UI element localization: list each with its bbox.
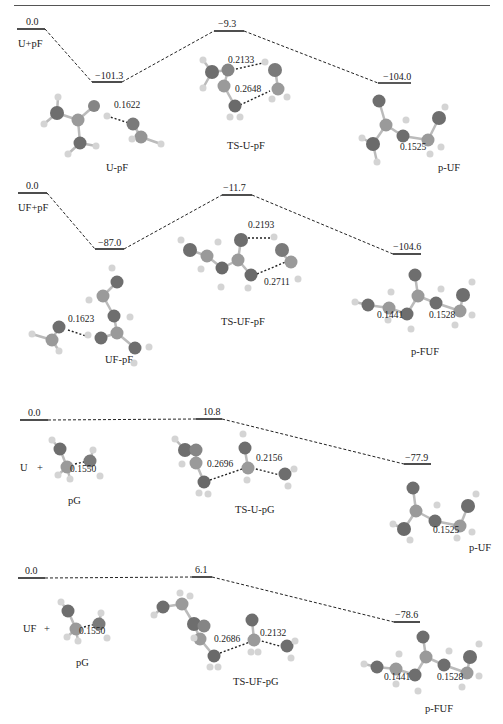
energy-reactant: 0.0 — [26, 181, 39, 191]
distance-label: 0.2696 — [207, 460, 233, 470]
reactant-label: UF+pF — [18, 203, 48, 214]
panel-u-pf: 0.0 U+pF −101.3 −9.3 −104.0 0.1622 0.213… — [0, 0, 503, 180]
panel-uf-pg: 0.0 UF + 0.1550 pG 6.1 0.2686 0.2132 TS-… — [0, 540, 503, 724]
molecule-u-pf — [41, 94, 165, 158]
distance-label: 0.1525 — [433, 526, 459, 536]
molecule-ts-u-pg — [172, 431, 298, 498]
species-label: TS-UF-pG — [233, 677, 279, 688]
energy-ts: −11.7 — [223, 183, 246, 193]
energy-product: −78.6 — [395, 610, 418, 620]
energy-product: −104.0 — [383, 72, 411, 82]
molecule-p-fuf — [352, 269, 476, 333]
energy-ts: −9.3 — [218, 19, 236, 29]
distance-label: 0.2133 — [228, 56, 254, 66]
distance-label: 0.2132 — [260, 629, 286, 639]
species-label: TS-U-pF — [227, 141, 265, 152]
energy-profile-lines — [0, 170, 503, 370]
species-label: pG — [68, 496, 81, 507]
energy-complex: −101.3 — [95, 71, 123, 81]
distance-label: 0.2711 — [264, 278, 290, 288]
energy-reactant: 0.0 — [26, 17, 39, 27]
species-label: TS-U-pG — [235, 505, 275, 516]
species-label: p-FUF — [425, 704, 453, 715]
molecule-p-fuf — [361, 631, 483, 695]
reactant-label: U — [20, 463, 28, 474]
molecule-p-uf — [359, 95, 449, 166]
distance-label: 0.1528 — [429, 311, 455, 321]
energy-profile-lines — [0, 540, 503, 724]
energy-ts: 10.8 — [203, 407, 221, 417]
distance-label: 0.2686 — [214, 635, 240, 645]
panel-uf-pf: 0.0 UF+pF −87.0 −11.7 −104.6 0.1623 0.21… — [0, 170, 503, 370]
plus-sign: + — [37, 463, 43, 474]
species-label: pG — [76, 658, 89, 669]
energy-complex: −87.0 — [98, 238, 121, 248]
distance-label: 0.1441 — [377, 311, 403, 321]
distance-label: 0.1441 — [384, 673, 410, 683]
distance-label: 0.1550 — [70, 465, 96, 475]
distance-label: 0.2156 — [256, 454, 282, 464]
distance-label: 0.2193 — [248, 221, 274, 231]
distance-label: 0.1525 — [400, 143, 426, 153]
plus-sign: + — [44, 624, 50, 635]
panel-u-pg: 0.0 U + 0.1550 pG 10.8 0.2696 0.2156 TS-… — [0, 360, 503, 540]
molecule-pg — [49, 437, 104, 483]
species-label: p-FUF — [411, 347, 439, 358]
reactant-label: UF — [23, 624, 36, 635]
energy-ts: 6.1 — [195, 565, 208, 575]
energy-product: −104.6 — [393, 242, 421, 252]
molecule-pg — [58, 599, 111, 645]
energy-reactant: 0.0 — [25, 566, 38, 576]
distance-label: 0.2648 — [235, 85, 261, 95]
distance-label: 0.1528 — [437, 673, 463, 683]
distance-label: 0.1623 — [68, 315, 94, 325]
energy-product: −77.9 — [405, 453, 428, 463]
energy-reactant: 0.0 — [28, 408, 41, 418]
distance-label: 0.1622 — [114, 101, 140, 111]
reactant-label: U+pF — [18, 39, 43, 50]
distance-label: 0.1550 — [79, 627, 105, 637]
species-label: TS-UF-pF — [221, 317, 265, 328]
